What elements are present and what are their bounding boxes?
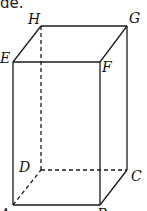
vertex-label-E: E xyxy=(0,50,10,66)
vertex-label-G: G xyxy=(129,10,140,26)
rectangular-prism-diagram: H G E F D C A B xyxy=(0,0,147,211)
vertex-label-C: C xyxy=(131,168,142,184)
vertex-label-H: H xyxy=(27,11,41,27)
vertex-label-F: F xyxy=(101,59,113,75)
vertex-label-A: A xyxy=(0,206,10,211)
vertex-label-D: D xyxy=(18,159,30,175)
edge-FG xyxy=(100,26,127,62)
edge-AD xyxy=(13,170,41,205)
vertex-label-B: B xyxy=(96,206,107,211)
edge-BC xyxy=(100,170,127,205)
edge-HE xyxy=(13,26,41,62)
